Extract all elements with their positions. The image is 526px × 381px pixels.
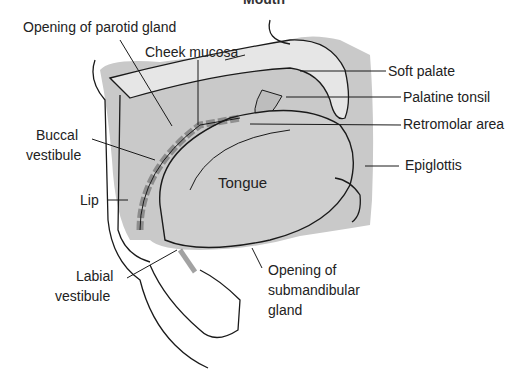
label-opening-of-parotid-gland: Opening of parotid gland	[23, 19, 176, 35]
label-labial-vestibule-line1: Labial	[76, 268, 113, 284]
label-retromolar-area: Retromolar area	[403, 116, 504, 132]
label-tongue: Tongue	[218, 175, 267, 191]
label-buccal-vestibule-line2: vestibule	[26, 147, 81, 163]
label-submandibular-line3: gland	[268, 302, 302, 318]
label-submandibular-line2: submandibular	[268, 282, 360, 298]
label-epiglottis: Epiglottis	[405, 157, 462, 173]
label-cheek-mucosa: Cheek mucosa	[145, 44, 238, 60]
label-lip: Lip	[80, 192, 99, 208]
label-labial-vestibule-line2: vestibule	[55, 288, 110, 304]
label-palatine-tonsil: Palatine tonsil	[403, 89, 490, 105]
label-submandibular-line1: Opening of	[268, 262, 337, 278]
label-soft-palate: Soft palate	[388, 63, 455, 79]
label-buccal-vestibule-line1: Buccal	[36, 127, 78, 143]
